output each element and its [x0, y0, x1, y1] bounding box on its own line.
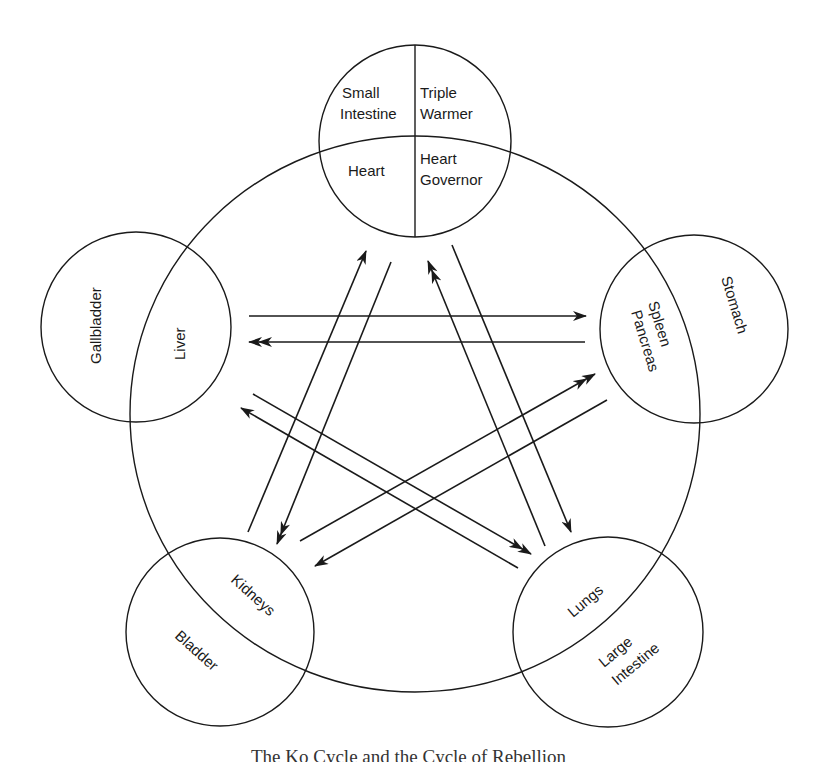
ko-cycle-diagram: Small Intestine Triple Warmer Heart Hear…	[0, 0, 817, 762]
label-heart-governor-1: Heart	[420, 150, 458, 167]
arrow-heart-to-kidneys	[277, 262, 391, 544]
arrow-kidneys-to-heart	[248, 251, 366, 532]
wood-circle	[41, 232, 231, 422]
label-bladder: Bladder	[172, 627, 222, 674]
arrow-lungs-to-liver	[241, 408, 518, 568]
label-heart-governor-2: Governor	[420, 171, 483, 188]
arrow-liver-to-lungs	[253, 394, 531, 554]
arrow-kidneys-to-spleen	[300, 374, 595, 541]
label-triple-warmer-1: Triple	[420, 84, 457, 101]
water-circle	[126, 538, 314, 726]
label-triple-warmer-2: Warmer	[420, 105, 473, 122]
label-heart: Heart	[348, 162, 386, 179]
label-small-intestine-2: Intestine	[340, 105, 397, 122]
label-small-intestine-1: Small	[342, 84, 380, 101]
arrow-spleen-to-kidneys	[315, 400, 607, 566]
label-kidneys: Kidneys	[228, 571, 279, 619]
label-stomach: Stomach	[718, 274, 752, 336]
earth-circle	[600, 235, 788, 423]
metal-circle	[513, 537, 703, 727]
arrow-heart-to-lungs	[452, 245, 571, 532]
label-gallbladder: Gallbladder	[87, 287, 104, 364]
arrow-lungs-to-heart	[428, 261, 545, 546]
label-liver: Liver	[171, 327, 188, 360]
figure-caption: The Ko Cycle and the Cycle of Rebellion	[0, 746, 817, 762]
label-lungs: Lungs	[564, 581, 606, 620]
